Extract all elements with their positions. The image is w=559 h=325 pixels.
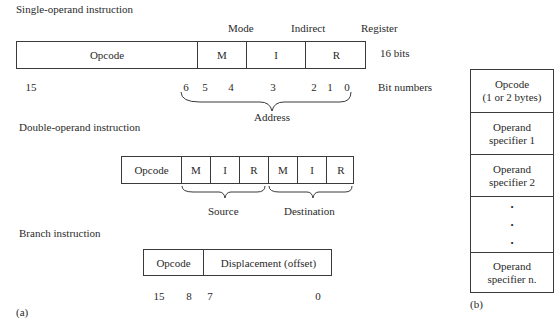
operand-specifier-n-cell: Operand specifier n. bbox=[471, 252, 553, 292]
dot: • bbox=[510, 216, 513, 234]
cell-line: specifier 2 bbox=[489, 176, 535, 189]
bit-number: 7 bbox=[207, 290, 213, 302]
size-label: 16 bits bbox=[380, 47, 410, 59]
opcode-field: Opcode bbox=[122, 157, 181, 183]
cell-line: Operand bbox=[493, 260, 531, 273]
register-header: Register bbox=[361, 22, 398, 34]
bit-numbers-label: Bit numbers bbox=[378, 81, 432, 93]
source-register-field: R bbox=[239, 157, 268, 183]
double-operand-format: Opcode M I R M I R bbox=[121, 156, 354, 184]
cell-line: Operand bbox=[493, 163, 531, 176]
branch-format: Opcode Displacement (offset) bbox=[143, 249, 332, 276]
single-operand-format: Opcode M I R bbox=[16, 41, 366, 69]
general-instruction-format: Opcode (1 or 2 bytes) Operand specifier … bbox=[470, 69, 554, 293]
register-field: R bbox=[305, 42, 367, 68]
source-destination-braces bbox=[181, 186, 356, 202]
branch-title: Branch instruction bbox=[19, 227, 101, 239]
bit-number: 15 bbox=[154, 290, 165, 302]
opcode-field: Opcode bbox=[17, 42, 197, 68]
cell-line: specifier n. bbox=[488, 273, 537, 286]
dest-mode-field: M bbox=[268, 157, 297, 183]
dot: • bbox=[510, 198, 513, 216]
cell-line: Opcode bbox=[495, 78, 529, 91]
single-operand-title: Single-operand instruction bbox=[16, 3, 133, 15]
bit-number: 15 bbox=[26, 81, 37, 93]
indirect-field: I bbox=[246, 42, 305, 68]
panel-b-label: (b) bbox=[470, 298, 483, 310]
double-operand-title: Double-operand instruction bbox=[19, 121, 140, 133]
cell-line: Operand bbox=[493, 121, 531, 134]
bit-number: 0 bbox=[315, 290, 321, 302]
panel-a-label: (a) bbox=[16, 306, 28, 318]
dest-indirect-field: I bbox=[297, 157, 326, 183]
opcode-cell: Opcode (1 or 2 bytes) bbox=[471, 70, 553, 112]
ellipsis-cell: • • • bbox=[471, 196, 553, 252]
mode-header: Mode bbox=[228, 22, 254, 34]
opcode-field: Opcode bbox=[144, 250, 203, 275]
operand-specifier-1-cell: Operand specifier 1 bbox=[471, 112, 553, 154]
destination-label: Destination bbox=[284, 205, 335, 217]
source-mode-field: M bbox=[181, 157, 210, 183]
displacement-field: Displacement (offset) bbox=[203, 250, 333, 275]
cell-line: (1 or 2 bytes) bbox=[483, 91, 542, 104]
dest-register-field: R bbox=[326, 157, 355, 183]
address-label: Address bbox=[254, 111, 290, 123]
mode-field: M bbox=[197, 42, 246, 68]
cell-line: specifier 1 bbox=[489, 134, 535, 147]
source-indirect-field: I bbox=[210, 157, 239, 183]
dot: • bbox=[510, 234, 513, 252]
indirect-header: Indirect bbox=[291, 22, 325, 34]
source-label: Source bbox=[208, 205, 239, 217]
bit-number: 8 bbox=[186, 290, 192, 302]
operand-specifier-2-cell: Operand specifier 2 bbox=[471, 154, 553, 196]
